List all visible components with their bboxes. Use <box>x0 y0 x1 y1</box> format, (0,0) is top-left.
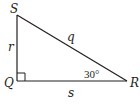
right-triangle-diagram: S Q R r q s 30° <box>0 0 140 104</box>
angle-label-r: 30° <box>84 68 99 80</box>
vertex-label-q: Q <box>4 76 14 90</box>
side-label-r: r <box>8 40 15 54</box>
side-sr <box>17 15 127 81</box>
side-label-q: q <box>67 30 75 44</box>
side-label-s: s <box>68 86 74 100</box>
right-angle-marker <box>17 73 25 81</box>
vertex-label-r: R <box>129 76 139 90</box>
triangle-sides <box>17 15 127 81</box>
vertex-label-s: S <box>10 2 18 16</box>
